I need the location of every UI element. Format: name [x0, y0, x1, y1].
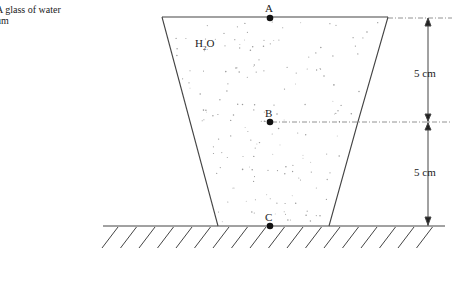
glass-diagram: 5 cm 5 cm A B C H2O	[0, 0, 470, 282]
dimension-label-bc: 5 cm	[414, 166, 436, 178]
point-c: C	[265, 211, 273, 229]
point-b: B	[265, 107, 273, 125]
glass-right-wall	[329, 17, 388, 226]
ground	[102, 226, 445, 248]
ground-hatching	[102, 227, 433, 248]
arrowhead-up-b	[425, 123, 431, 130]
point-a-label: A	[265, 2, 273, 14]
arrowhead-up-a	[425, 18, 431, 26]
point-a: A	[265, 2, 273, 21]
arrowhead-down-c	[425, 217, 431, 225]
water-formula-label: H2O	[195, 37, 214, 52]
dimension-label-ab: 5 cm	[414, 67, 436, 79]
point-c-label: C	[265, 211, 272, 223]
point-b-label: B	[265, 107, 272, 119]
arrowhead-down-b	[425, 114, 431, 121]
